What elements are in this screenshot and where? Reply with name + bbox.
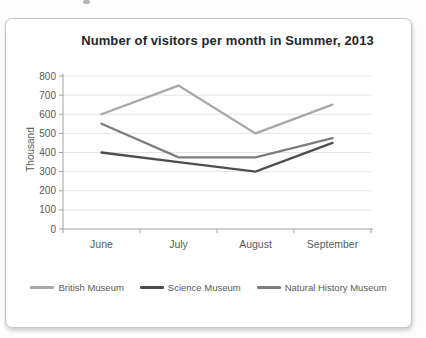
- y-tick-label: 100: [39, 204, 56, 215]
- y-tick-label: 800: [39, 71, 56, 82]
- legend-swatch-science-museum: [140, 286, 164, 289]
- y-tick-label: 500: [39, 128, 56, 139]
- legend-item-science-museum: Science Museum: [140, 282, 241, 293]
- x-tick-label-july: July: [169, 238, 188, 250]
- x-tick-label-september: September: [307, 238, 359, 250]
- legend-item-natural-history-museum: Natural History Museum: [257, 282, 387, 293]
- y-tick-label: 400: [39, 147, 56, 158]
- x-tick-label-june: June: [90, 238, 113, 250]
- y-tick-label: 300: [39, 166, 56, 177]
- y-tick-label: 200: [39, 185, 56, 196]
- legend-swatch-british-museum: [30, 286, 54, 289]
- legend-label-science-museum: Science Museum: [168, 282, 241, 293]
- x-tick-label-august: August: [239, 238, 272, 250]
- scan-artifact: [83, 0, 90, 4]
- y-tick-label: 0: [50, 224, 56, 235]
- legend-item-british-museum: British Museum: [30, 282, 123, 293]
- y-tick-label: 600: [39, 109, 56, 120]
- legend: British MuseumScience MuseumNatural Hist…: [6, 279, 411, 295]
- series-line-british-museum: [102, 86, 333, 134]
- chart-frame: Number of visitors per month in Summer, …: [5, 18, 412, 328]
- y-tick-label: 700: [39, 90, 56, 101]
- legend-label-british-museum: British Museum: [58, 282, 123, 293]
- legend-swatch-natural-history-museum: [257, 286, 281, 289]
- legend-label-natural-history-museum: Natural History Museum: [285, 282, 387, 293]
